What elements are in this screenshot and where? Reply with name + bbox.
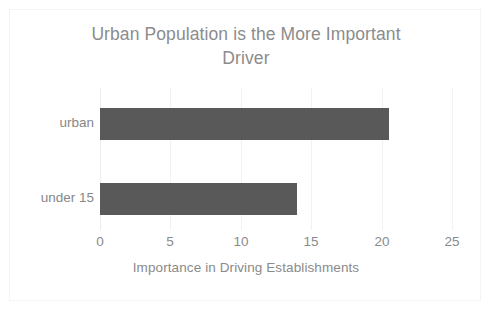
x-axis-title: Importance in Driving Establishments (36, 260, 456, 275)
x-tick-label-25: 25 (432, 234, 472, 249)
chart-title-line-2: Driver (36, 46, 456, 70)
gridline-25 (452, 88, 453, 230)
x-tick-label-0: 0 (80, 234, 120, 249)
x-tick-label-15: 15 (291, 234, 331, 249)
plot-area (100, 88, 452, 230)
chart-title: Urban Population is the More Important D… (36, 22, 456, 70)
bar-urban[interactable] (100, 108, 389, 140)
x-tick-label-20: 20 (362, 234, 402, 249)
chart-title-line-1: Urban Population is the More Important (36, 22, 456, 46)
bar-under-15[interactable] (100, 183, 297, 215)
y-axis-category-labels: urban under 15 (8, 88, 94, 230)
y-axis-label-urban: urban (8, 115, 94, 130)
x-axis-tick-labels: 0 5 10 15 20 25 (100, 234, 452, 256)
chart-card: Urban Population is the More Important D… (0, 0, 492, 311)
x-tick-label-10: 10 (221, 234, 261, 249)
y-axis-label-under-15: under 15 (8, 190, 94, 205)
x-tick-label-5: 5 (150, 234, 190, 249)
